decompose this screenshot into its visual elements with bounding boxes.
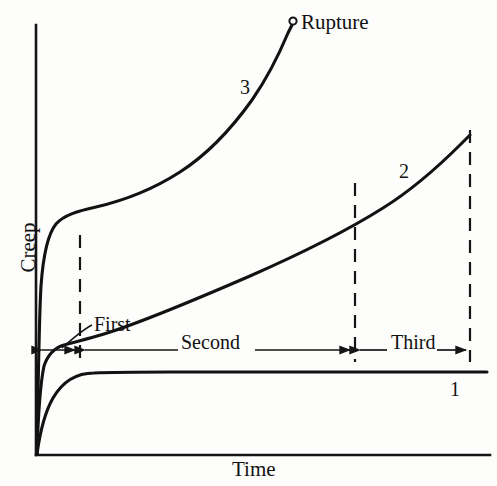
stage-label-second: Second (181, 332, 240, 352)
creep-curve-plot (0, 0, 497, 486)
creep-curve-3 (37, 25, 292, 454)
y-axis-label: Creep (18, 213, 39, 283)
stage-label-first: First (94, 314, 131, 334)
rupture-point-marker (289, 17, 296, 24)
rupture-label: Rupture (301, 12, 369, 33)
first-stage-leader-line (62, 325, 92, 348)
creep-curve-figure: Rupture Creep Time 1 2 3 First Second Th… (0, 0, 497, 486)
creep-curve-2 (37, 135, 470, 454)
stage-label-third: Third (391, 332, 435, 352)
x-axis-label: Time (232, 459, 276, 480)
curve-label-3: 3 (240, 77, 250, 97)
creep-curve-1 (37, 372, 487, 454)
curve-label-1: 1 (450, 379, 460, 399)
curve-label-2: 2 (399, 161, 409, 181)
